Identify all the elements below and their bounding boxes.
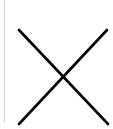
close-icon[interactable] bbox=[0, 0, 113, 129]
